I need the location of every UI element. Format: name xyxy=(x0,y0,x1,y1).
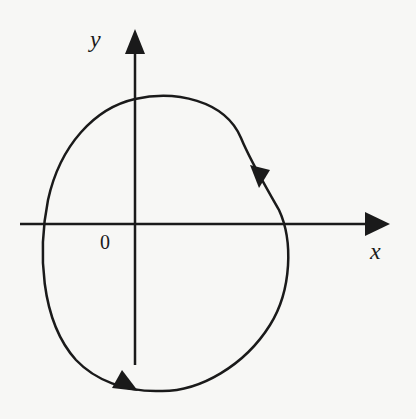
closed-orbit-curve xyxy=(43,96,288,391)
y-axis xyxy=(125,29,145,365)
origin-label: 0 xyxy=(100,231,110,254)
x-axis xyxy=(20,212,390,236)
y-axis-label: y xyxy=(90,26,101,53)
diagram-svg xyxy=(0,0,416,419)
x-axis-arrow-icon xyxy=(365,212,390,236)
phase-diagram: y x 0 xyxy=(0,0,416,419)
orbit-arrow-bottom-icon xyxy=(112,370,138,391)
orbit-arrow-upper-right-icon xyxy=(250,165,270,188)
y-axis-arrow-icon xyxy=(125,29,145,54)
x-axis-label: x xyxy=(370,238,381,265)
